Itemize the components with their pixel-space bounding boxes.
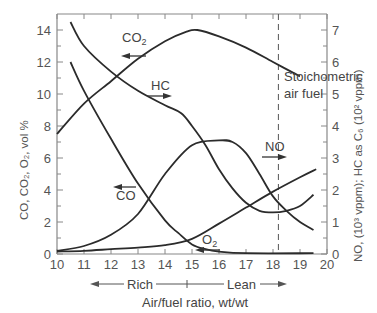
y-left-tick-label: 2	[44, 215, 51, 230]
y-left-tick-label: 0	[44, 247, 51, 262]
y-left-tick-label: 12	[37, 55, 51, 70]
x-tick-label: 18	[266, 257, 280, 272]
y-right-tick-label: 4	[332, 119, 339, 134]
y-right-tick-label: 1	[332, 215, 339, 230]
curve-co	[71, 62, 314, 253]
emissions-chart: 1011121314151617181920 02468101214 01234…	[0, 0, 377, 313]
curve-hc	[71, 22, 314, 212]
y-right-tick-label: 7	[332, 23, 339, 38]
y-axis-right-ticks: 01234567	[321, 23, 339, 262]
x-tick-label: 16	[212, 257, 226, 272]
y-right-tick-label: 2	[332, 183, 339, 198]
x-tick-label: 19	[293, 257, 307, 272]
y-left-tick-label: 4	[44, 183, 51, 198]
x-tick-label: 11	[77, 257, 91, 272]
stoichiometric-label-line2: air fuel	[284, 86, 323, 101]
x-tick-label: 15	[185, 257, 199, 272]
y-axis-right-title: NO, (10³ vppm); HC as C₆ (10² vppm)	[352, 69, 364, 262]
y-right-tick-label: 5	[332, 87, 339, 102]
co2-label: CO2	[122, 30, 147, 47]
x-axis-ticks: 1011121314151617181920	[50, 14, 334, 272]
x-tick-label: 14	[158, 257, 172, 272]
rich-label: Rich	[127, 277, 153, 292]
y-left-tick-label: 6	[44, 151, 51, 166]
hc-label: HC	[151, 78, 170, 93]
co-label: CO	[116, 188, 136, 203]
lean-label: Lean	[227, 277, 256, 292]
y-axis-left-ticks: 02468101214	[37, 23, 63, 262]
x-tick-label: 17	[239, 257, 253, 272]
x-tick-label: 12	[104, 257, 118, 272]
rich-lean-indicator: Rich Lean	[90, 277, 287, 292]
curve-co2	[57, 30, 300, 134]
no-label: NO	[265, 139, 285, 154]
y-axis-left-title: CO, CO₂, O₂, vol %	[18, 120, 30, 220]
y-left-tick-label: 14	[37, 23, 51, 38]
y-right-tick-label: 3	[332, 151, 339, 166]
x-axis-title: Air/fuel ratio, wt/wt	[142, 295, 249, 310]
y-left-tick-label: 10	[37, 87, 51, 102]
y-right-tick-label: 0	[332, 247, 339, 262]
co2-arrow-left-icon	[121, 53, 146, 59]
x-tick-label: 13	[131, 257, 145, 272]
y-right-tick-label: 6	[332, 55, 339, 70]
x-tick-label: 10	[50, 257, 64, 272]
o2-label: O2	[202, 232, 217, 249]
y-left-tick-label: 8	[44, 119, 51, 134]
curves	[57, 22, 316, 253]
no-arrow-right-icon	[262, 154, 287, 160]
plot-frame	[57, 14, 327, 254]
